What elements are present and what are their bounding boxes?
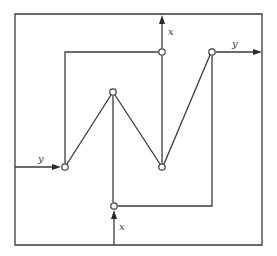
inner-right-wire <box>118 56 212 206</box>
zig-mid-topright <box>164 55 210 164</box>
left-y-arrow-icon <box>52 164 61 170</box>
node-apex <box>110 89 116 95</box>
node-mid <box>159 164 165 170</box>
zig-apex-mid <box>115 95 160 164</box>
bottom-x-label: x <box>119 221 125 232</box>
top-x-label: x <box>168 26 174 37</box>
node-bottom-x <box>111 203 117 209</box>
right-y-label: y <box>231 38 238 49</box>
outer-border-wire <box>15 14 262 245</box>
top-x-arrow-icon <box>159 15 165 24</box>
node-top-right <box>209 49 215 55</box>
left-y-label: y <box>37 153 44 164</box>
node-top-x <box>159 49 165 55</box>
zig-left-apex <box>67 95 111 164</box>
right-y-arrow-icon <box>253 49 262 55</box>
node-left <box>62 164 68 170</box>
diagram-canvas: x y y x <box>0 0 277 256</box>
bottom-x-arrow-icon <box>111 210 117 219</box>
